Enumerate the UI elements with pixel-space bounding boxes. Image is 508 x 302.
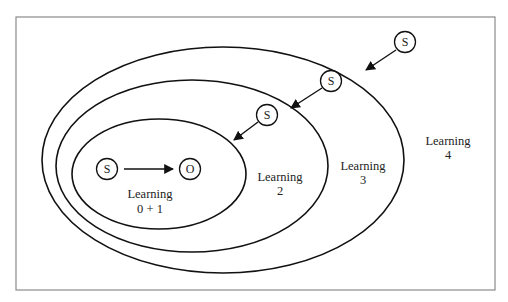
svg-text:Learning: Learning bbox=[127, 187, 173, 201]
arrow-level-2 bbox=[234, 122, 258, 140]
stimulus-level-4-node: S bbox=[395, 32, 416, 53]
stimulus-level-4-label: S bbox=[402, 35, 409, 49]
arrow-level-3 bbox=[291, 88, 322, 108]
zone-label-learning-3: Learning 3 bbox=[340, 159, 386, 187]
diagram-frame bbox=[16, 17, 495, 290]
zone-label-learning-4: Learning 4 bbox=[425, 134, 471, 162]
stimulus-level-3-node: S bbox=[321, 71, 342, 92]
inner-stimulus-node: S bbox=[97, 159, 118, 180]
outcome-node: O bbox=[180, 159, 201, 180]
stimulus-level-2-label: S bbox=[264, 108, 271, 122]
stimulus-level-2-node: S bbox=[257, 105, 278, 126]
arrow-level-4 bbox=[366, 50, 396, 70]
learning-levels-diagram: S O S S S Learning 0 + 1 Learning 2 Lear… bbox=[0, 0, 508, 302]
svg-text:Learning: Learning bbox=[340, 159, 386, 173]
svg-text:Learning: Learning bbox=[425, 134, 471, 148]
inner-stimulus-label: S bbox=[104, 162, 111, 176]
svg-text:3: 3 bbox=[360, 173, 366, 187]
zone-label-learning-2: Learning 2 bbox=[257, 170, 303, 198]
stimulus-level-3-label: S bbox=[328, 74, 335, 88]
outcome-label: O bbox=[186, 162, 195, 176]
svg-text:0 + 1: 0 + 1 bbox=[137, 202, 163, 216]
zone-label-learning-0-1: Learning 0 + 1 bbox=[127, 187, 173, 216]
svg-text:Learning: Learning bbox=[257, 170, 303, 184]
svg-text:2: 2 bbox=[277, 184, 283, 198]
svg-text:4: 4 bbox=[445, 148, 452, 162]
